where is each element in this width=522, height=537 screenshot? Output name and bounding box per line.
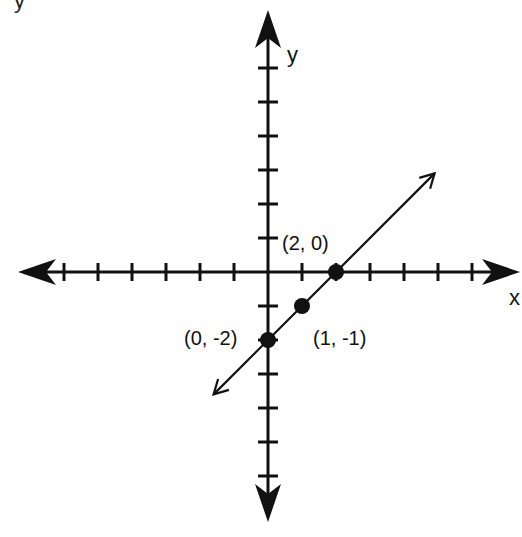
point-label-2-0: (2, 0): [282, 232, 329, 255]
y-axis-label: y: [287, 42, 298, 68]
point-label-0-neg2: (0, -2): [184, 327, 237, 350]
data-point: [294, 298, 310, 314]
data-line: [214, 173, 435, 394]
data-point: [260, 332, 276, 348]
line-y-equals-x-minus-2: [214, 173, 435, 394]
data-point: [328, 264, 344, 280]
x-axis-label: x: [509, 285, 520, 311]
coordinate-plane: [0, 0, 522, 537]
axes: [18, 10, 520, 522]
point-label-1-neg1: (1, -1): [313, 327, 366, 350]
